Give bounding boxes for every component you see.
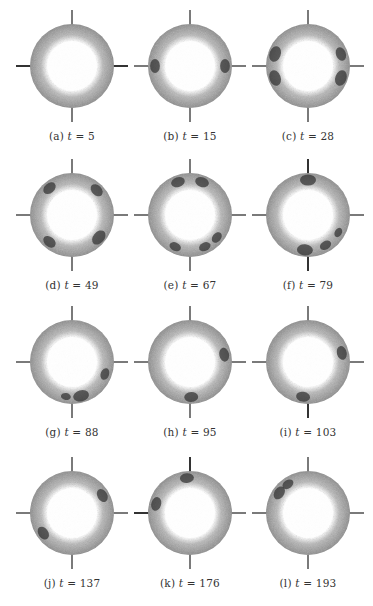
time-value: = 67 xyxy=(187,279,217,291)
figure-panel: (a) t = 5 xyxy=(12,2,132,150)
panel-label: (a) xyxy=(49,130,64,142)
panel-caption: (l) t = 193 xyxy=(248,577,368,589)
figure-panel: (e) t = 67 xyxy=(130,151,250,299)
figure-panel: (j) t = 137 xyxy=(12,449,132,597)
particle-cluster xyxy=(220,59,230,73)
figure-panel: (f) t = 79 xyxy=(248,151,368,299)
figure-panel: (i) t = 103 xyxy=(248,298,368,446)
particle-cluster xyxy=(150,59,160,73)
panel-label: (b) xyxy=(163,130,179,142)
panel-caption: (g) t = 88 xyxy=(12,426,132,438)
panel-caption: (j) t = 137 xyxy=(12,577,132,589)
time-value: = 103 xyxy=(300,426,337,438)
panel-label: (l) xyxy=(280,577,292,589)
time-value: = 193 xyxy=(300,577,337,589)
panel-caption: (d) t = 49 xyxy=(12,279,132,291)
figure-panel: (b) t = 15 xyxy=(130,2,250,150)
time-value: = 176 xyxy=(183,577,220,589)
ring-plot xyxy=(248,2,368,130)
ring-plot xyxy=(248,298,368,426)
figure-panel: (g) t = 88 xyxy=(12,298,132,446)
panel-caption: (a) t = 5 xyxy=(12,130,132,142)
figure-panel: (l) t = 193 xyxy=(248,449,368,597)
ring-plot xyxy=(12,449,132,577)
figure-panel: (c) t = 28 xyxy=(248,2,368,150)
panel-caption: (f) t = 79 xyxy=(248,279,368,291)
ring-plot xyxy=(130,449,250,577)
panel-caption: (k) t = 176 xyxy=(130,577,250,589)
panel-label: (j) xyxy=(44,577,56,589)
time-value: = 137 xyxy=(64,577,101,589)
time-value: = 15 xyxy=(187,130,217,142)
figure-grid: (a) t = 5 (b) t = 15 xyxy=(0,0,373,606)
ring-plot xyxy=(248,449,368,577)
panel-label: (k) xyxy=(160,577,175,589)
ring-plot xyxy=(12,298,132,426)
time-value: = 49 xyxy=(69,279,99,291)
panel-label: (g) xyxy=(45,426,61,438)
particle-cluster xyxy=(300,174,316,185)
panel-caption: (b) t = 15 xyxy=(130,130,250,142)
figure-panel: (d) t = 49 xyxy=(12,151,132,299)
panel-caption: (i) t = 103 xyxy=(248,426,368,438)
time-value: = 95 xyxy=(187,426,217,438)
ring-plot xyxy=(130,298,250,426)
panel-label: (d) xyxy=(45,279,61,291)
panel-caption: (e) t = 67 xyxy=(130,279,250,291)
panel-caption: (c) t = 28 xyxy=(248,130,368,142)
figure-panel: (h) t = 95 xyxy=(130,298,250,446)
ring-plot xyxy=(12,2,132,130)
time-value: = 5 xyxy=(72,130,95,142)
ring-plot xyxy=(12,151,132,279)
panel-label: (f) xyxy=(283,279,296,291)
panel-caption: (h) t = 95 xyxy=(130,426,250,438)
panel-label: (e) xyxy=(164,279,179,291)
time-value: = 28 xyxy=(304,130,334,142)
ring-plot xyxy=(130,151,250,279)
ring-plot xyxy=(248,151,368,279)
time-value: = 79 xyxy=(303,279,333,291)
panel-label: (i) xyxy=(280,426,292,438)
figure-panel: (k) t = 176 xyxy=(130,449,250,597)
time-value: = 88 xyxy=(69,426,99,438)
panel-label: (c) xyxy=(282,130,297,142)
ring-plot xyxy=(130,2,250,130)
panel-label: (h) xyxy=(163,426,179,438)
